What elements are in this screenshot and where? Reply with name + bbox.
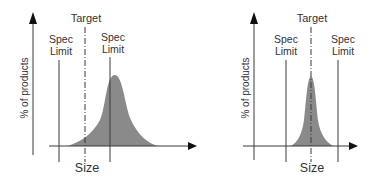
target-label: Target [71,12,102,24]
spec-limit-right-label-line2: Limit [332,45,354,57]
spec-limit-left-label-line2: Limit [275,45,297,57]
spec-limit-right-label-line1: Spec [101,31,125,43]
spec-limit-left-label-line1: Spec [274,33,298,45]
x-axis-arrow-icon [349,142,358,150]
y-axis-arrow-icon [250,12,258,24]
spec-limit-right-label-line1: Spec [331,33,355,45]
x-axis-label: Size [300,161,324,175]
spec-limit-right-label-line2: Limit [102,43,124,55]
y-axis-label: % of products [240,57,251,118]
distribution-curve [68,75,158,146]
x-axis-arrow-icon [188,142,197,150]
diagram-off-target: Target Spec Limit Spec Limit Size % of p… [19,12,197,175]
diagram-on-target: Target Spec Limit Spec Limit Size % of p… [240,12,358,175]
distribution-curve [291,76,333,146]
y-axis-arrow-icon [29,12,37,24]
y-axis-label: % of products [19,57,30,118]
spec-limit-left-label-line2: Limit [50,45,72,57]
x-axis-label: Size [75,161,99,175]
spec-limit-left-label-line1: Spec [49,33,73,45]
target-label: Target [297,12,328,24]
process-capability-diagrams: Target Spec Limit Spec Limit Size % of p… [0,0,377,180]
